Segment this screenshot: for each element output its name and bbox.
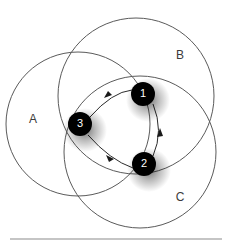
arrowhead-to-node-2 (157, 128, 163, 137)
arrowhead-to-node-1 (104, 91, 112, 98)
venn-diagram-svg: A B C 1 2 3 (0, 0, 231, 244)
node-2-label: 2 (141, 157, 147, 169)
set-label-a: A (29, 112, 37, 126)
node-1-label: 1 (140, 87, 146, 99)
node-3-label: 3 (77, 117, 83, 129)
node-3[interactable]: 3 (63, 108, 107, 152)
node-2[interactable]: 2 (127, 148, 171, 192)
diagram-canvas: A B C 1 2 3 (0, 0, 231, 244)
set-label-b: B (176, 48, 184, 62)
set-label-c: C (176, 190, 185, 204)
node-1[interactable]: 1 (126, 78, 170, 122)
